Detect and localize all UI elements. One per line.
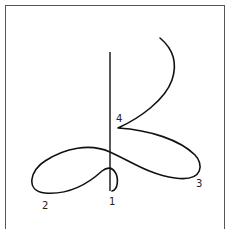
point-label-2: 2 <box>42 201 48 211</box>
point-label-3: 3 <box>196 179 202 189</box>
point-label-1: 1 <box>109 197 115 207</box>
diagram-canvas <box>0 0 229 229</box>
point-label-4: 4 <box>116 114 122 124</box>
